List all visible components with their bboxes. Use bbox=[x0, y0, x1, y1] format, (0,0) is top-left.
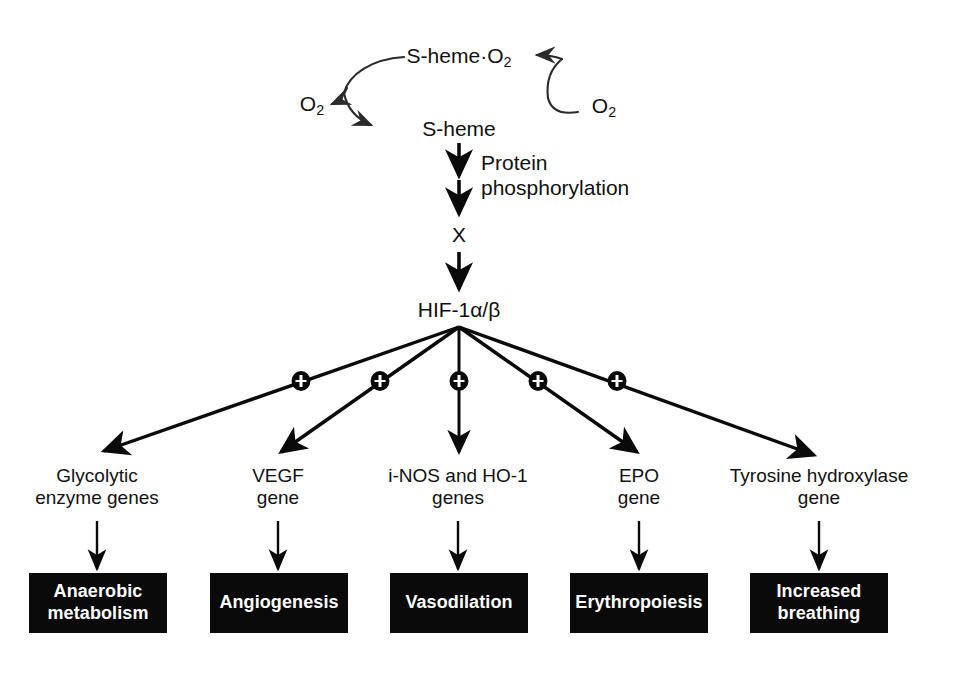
outcome-box-vasodilation: Vasodilation bbox=[390, 573, 528, 633]
outcome-box-increased-breathing: Increased breathing bbox=[750, 573, 888, 633]
activation-plus-icon-epo bbox=[529, 371, 548, 391]
activation-plus-icon-tyrosine-hydroxylase bbox=[608, 371, 627, 391]
label-intermediate-x: X bbox=[452, 223, 466, 248]
label-s-heme-o2-complex: S-heme·O2 bbox=[407, 44, 512, 71]
vegf-gene-line2: gene bbox=[198, 487, 358, 509]
glycolytic-genes-line2: enzyme genes bbox=[2, 487, 192, 509]
outcome-vasodilation-text: Vasodilation bbox=[405, 592, 512, 614]
outcome-erythropoiesis-text: Erythropoiesis bbox=[575, 592, 702, 614]
protein-phosphorylation-line1: Protein bbox=[481, 151, 731, 176]
outcome-angiogenesis-text: Angiogenesis bbox=[219, 592, 338, 614]
label-inos-ho1-genes: i-NOS and HO-1 genes bbox=[353, 465, 563, 510]
outcome-increased-breathing-line1: Increased bbox=[777, 581, 862, 603]
activation-plus-icon-vegf bbox=[371, 371, 390, 391]
tyrosine-hydroxylase-gene-line1: Tyrosine hydroxylase bbox=[684, 465, 954, 487]
label-vegf-gene: VEGF gene bbox=[198, 465, 358, 510]
label-glycolytic-enzyme-genes: Glycolytic enzyme genes bbox=[2, 465, 192, 510]
arrow-hif-to-vegf-gene bbox=[281, 327, 459, 452]
activation-plus-icon-glycolytic bbox=[292, 371, 311, 391]
oxygen-released-subscript: 2 bbox=[316, 102, 324, 118]
label-tyrosine-hydroxylase-gene: Tyrosine hydroxylase gene bbox=[684, 465, 954, 510]
arrow-hif-to-epo-gene bbox=[459, 327, 637, 452]
outcome-anaerobic-metabolism-line1: Anaerobic bbox=[47, 581, 148, 603]
vegf-gene-line1: VEGF bbox=[198, 465, 358, 487]
label-s-heme: S-heme bbox=[422, 117, 496, 142]
pathway-diagram: S-heme·O2 S-heme O2 O2 Protein phosphory… bbox=[0, 0, 964, 675]
inos-ho1-genes-line2: genes bbox=[353, 487, 563, 509]
inos-ho1-genes-line1: i-NOS and HO-1 bbox=[353, 465, 563, 487]
activation-plus-icon-inos-ho1 bbox=[450, 371, 469, 391]
glycolytic-genes-line1: Glycolytic bbox=[2, 465, 192, 487]
tyrosine-hydroxylase-gene-line2: gene bbox=[684, 487, 954, 509]
outcome-box-erythropoiesis: Erythropoiesis bbox=[570, 573, 708, 633]
outcome-box-anaerobic-metabolism: Anaerobic metabolism bbox=[29, 573, 167, 633]
label-oxygen-released: O2 bbox=[300, 92, 324, 119]
outcome-increased-breathing-line2: breathing bbox=[777, 603, 862, 625]
arrow-hif-to-glycolytic-genes bbox=[104, 327, 459, 451]
oxygen-release-curve bbox=[332, 57, 404, 125]
oxygen-incoming-text: O bbox=[592, 94, 608, 117]
oxygen-incoming-subscript: 2 bbox=[608, 104, 616, 120]
label-oxygen-incoming: O2 bbox=[592, 94, 616, 121]
outcome-anaerobic-metabolism-line2: metabolism bbox=[47, 603, 148, 625]
label-protein-phosphorylation: Protein phosphorylation bbox=[481, 151, 731, 201]
oxygen-binding-curve bbox=[537, 55, 578, 113]
protein-phosphorylation-line2: phosphorylation bbox=[481, 176, 731, 201]
outcome-box-angiogenesis: Angiogenesis bbox=[210, 573, 348, 633]
s-heme-o2-text: S-heme·O bbox=[407, 44, 504, 67]
arrow-hif-to-tyrosine-hydroxylase-gene bbox=[459, 327, 814, 455]
label-hif-1-alpha-beta: HIF-1α/β bbox=[418, 298, 501, 323]
s-heme-o2-subscript: 2 bbox=[503, 54, 511, 70]
oxygen-released-text: O bbox=[300, 92, 316, 115]
